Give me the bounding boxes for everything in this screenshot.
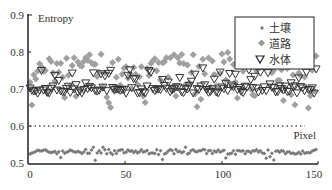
y-axis-label: Entropy [38,12,74,24]
x-axis-label: Pixel [293,129,316,141]
legend-label-soil: 土壤 [269,21,291,35]
entropy-scatter-chart: 0.9 0.8 0.7 0.6 0.5 0 50 100 150 Entropy… [0,0,332,190]
x-tick-50: 50 [121,168,133,180]
x-tick-0: 0 [27,168,33,180]
y-tick-0.6: 0.6 [10,120,24,132]
x-tick-100: 100 [215,168,232,180]
legend-label-road: 道路 [269,37,291,51]
x-tick-150: 150 [306,168,323,180]
y-tick-0.9: 0.9 [10,9,24,21]
y-tick-0.7: 0.7 [10,83,24,95]
y-tick-0.5: 0.5 [10,157,24,169]
legend: 土壤 道路 水体 [235,17,314,69]
legend-label-water: 水体 [269,53,291,67]
y-tick-0.8: 0.8 [10,46,24,58]
